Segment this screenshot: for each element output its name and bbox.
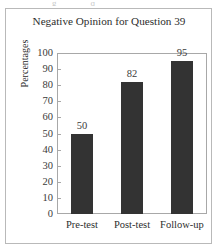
y-tick-mark <box>58 166 61 167</box>
y-tick-mark <box>58 198 61 199</box>
y-tick-label: 0 <box>7 209 53 219</box>
y-tick-mark <box>58 69 61 70</box>
bar-value-label: 82 <box>112 68 152 79</box>
y-tick-label: 10 <box>7 193 53 203</box>
clipped-text-above-figure: gq <box>0 0 218 6</box>
y-tick-mark <box>58 101 61 102</box>
y-tick-mark <box>58 150 61 151</box>
y-tick-mark <box>58 85 61 86</box>
y-tick-label: 70 <box>7 96 53 106</box>
figure-container: gq Negative Opinion for Question 39 Perc… <box>0 0 218 252</box>
bar <box>71 134 93 215</box>
bar <box>171 61 193 214</box>
y-tick-label: 60 <box>7 112 53 122</box>
chart-title: Negative Opinion for Question 39 <box>0 15 218 28</box>
y-tick-label: 80 <box>7 80 53 90</box>
y-tick-label: 40 <box>7 145 53 155</box>
y-tick-mark <box>58 182 61 183</box>
y-tick-mark <box>58 117 61 118</box>
bar-value-label: 50 <box>62 120 102 131</box>
y-tick-label: 90 <box>7 64 53 74</box>
x-tick-label: Follow-up <box>153 219 211 231</box>
y-tick-mark <box>58 134 61 135</box>
bar-value-label: 95 <box>162 47 202 58</box>
bar <box>121 82 143 214</box>
y-tick-label: 20 <box>7 177 53 187</box>
y-tick-label: 30 <box>7 161 53 171</box>
y-tick-label: 100 <box>7 48 53 58</box>
y-tick-label: 50 <box>7 129 53 139</box>
